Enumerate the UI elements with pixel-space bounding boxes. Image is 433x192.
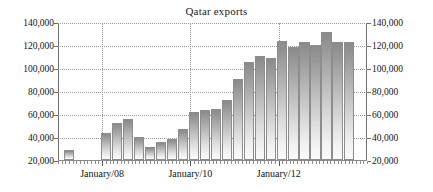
- x-tick-mark: [132, 161, 133, 164]
- y-tick-mark: [54, 138, 58, 139]
- bar: [222, 100, 232, 160]
- bar: [189, 112, 199, 160]
- x-tick-mark: [238, 161, 239, 164]
- x-tick-mark: [304, 161, 305, 164]
- x-tick-mark: [150, 161, 151, 164]
- y-axis-tick-label: 120,000: [372, 41, 403, 51]
- x-tick-mark: [172, 161, 173, 164]
- x-tick-mark: [128, 161, 129, 164]
- x-tick-mark: [334, 161, 335, 164]
- bar: [101, 133, 111, 160]
- x-tick-mark: [95, 161, 96, 164]
- y-axis-tick-label: 120,000: [23, 41, 54, 51]
- x-tick-mark: [301, 161, 302, 164]
- x-tick-mark: [264, 161, 265, 164]
- x-tick-mark: [205, 161, 206, 164]
- y-axis-tick-label: 100,000: [372, 64, 403, 74]
- chart-title: Qatar exports: [0, 5, 433, 17]
- x-axis-tick-label: January/10: [168, 168, 212, 179]
- x-tick-mark: [121, 161, 122, 164]
- y-axis-tick-label: 140,000: [372, 18, 403, 28]
- x-tick-mark: [62, 161, 63, 164]
- x-tick-mark: [187, 161, 188, 164]
- x-tick-mark: [327, 161, 328, 164]
- y-axis-tick-label: 60,000: [372, 110, 398, 120]
- bar: [123, 119, 133, 160]
- x-tick-mark: [363, 161, 364, 164]
- y-axis-tick-label: 100,000: [23, 64, 54, 74]
- x-tick-mark: [352, 161, 353, 164]
- y-tick-mark: [54, 92, 58, 93]
- bar: [332, 42, 342, 160]
- x-tick-mark: [209, 161, 210, 164]
- y-axis-tick-label: 60,000: [28, 110, 54, 120]
- x-tick-mark: [98, 161, 99, 164]
- x-tick-mark: [176, 161, 177, 164]
- x-tick-mark: [268, 161, 269, 164]
- bar: [156, 142, 166, 160]
- x-tick-mark: [360, 161, 361, 164]
- x-tick-mark: [282, 161, 283, 164]
- bar: [277, 41, 287, 160]
- bar: [134, 137, 144, 160]
- x-tick-mark: [242, 161, 243, 164]
- x-tick-mark: [349, 161, 350, 164]
- x-tick-mark: [293, 161, 294, 164]
- x-tick-mark: [257, 161, 258, 164]
- x-tick-mark: [165, 161, 166, 164]
- x-tick-mark-major: [102, 161, 103, 166]
- bar: [64, 150, 74, 160]
- y-tick-mark: [367, 23, 371, 24]
- x-tick-mark: [91, 161, 92, 164]
- x-tick-mark: [319, 161, 320, 164]
- x-tick-mark: [216, 161, 217, 164]
- x-tick-mark: [253, 161, 254, 164]
- x-tick-mark: [139, 161, 140, 164]
- y-tick-mark: [367, 69, 371, 70]
- y-tick-mark: [54, 46, 58, 47]
- x-tick-mark: [312, 161, 313, 164]
- x-axis-tick-label: January/08: [80, 168, 124, 179]
- y-tick-mark: [54, 23, 58, 24]
- y-tick-mark: [367, 115, 371, 116]
- x-tick-mark: [275, 161, 276, 164]
- y-tick-mark: [54, 69, 58, 70]
- bar: [167, 139, 177, 160]
- bar: [299, 42, 309, 160]
- x-tick-mark: [271, 161, 272, 164]
- x-tick-mark: [65, 161, 66, 164]
- x-tick-mark: [69, 161, 70, 164]
- x-tick-mark: [143, 161, 144, 164]
- x-tick-mark: [213, 161, 214, 164]
- x-tick-mark: [260, 161, 261, 164]
- x-tick-mark: [235, 161, 236, 164]
- x-axis-tick-label: January/12: [257, 168, 301, 179]
- y-axis-tick-label: 40,000: [28, 133, 54, 143]
- chart-container: Qatar exports 20,00040,00060,00080,00010…: [0, 0, 433, 192]
- x-tick-mark: [227, 161, 228, 164]
- bar: [310, 45, 320, 160]
- x-tick-mark: [249, 161, 250, 164]
- x-tick-mark: [220, 161, 221, 164]
- x-tick-mark: [106, 161, 107, 164]
- x-tick-mark: [323, 161, 324, 164]
- y-axis-left-labels: 20,00040,00060,00080,000100,000120,00014…: [0, 0, 54, 192]
- y-axis-tick-label: 140,000: [23, 18, 54, 28]
- y-axis-right-labels: 20,00040,00060,00080,000100,000120,00014…: [372, 0, 433, 192]
- y-axis-tick-label: 80,000: [28, 87, 54, 97]
- x-tick-mark: [168, 161, 169, 164]
- x-tick-mark: [345, 161, 346, 164]
- x-tick-mark-major: [190, 161, 191, 166]
- y-axis-tick-label: 20,000: [28, 156, 54, 166]
- x-tick-mark: [157, 161, 158, 164]
- x-tick-mark: [367, 161, 368, 164]
- x-tick-mark: [231, 161, 232, 164]
- x-tick-mark: [297, 161, 298, 164]
- x-tick-mark: [84, 161, 85, 164]
- bar: [145, 147, 155, 160]
- x-tick-mark: [341, 161, 342, 164]
- x-tick-mark: [194, 161, 195, 164]
- x-tick-mark: [154, 161, 155, 164]
- bar: [244, 62, 254, 160]
- x-tick-mark: [201, 161, 202, 164]
